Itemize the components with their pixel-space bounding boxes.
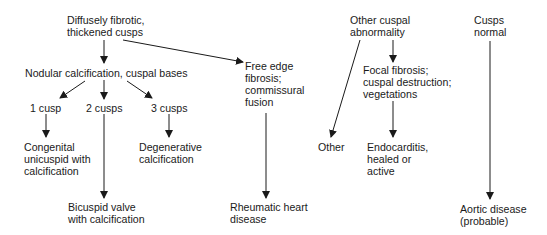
- node-line: vegetations: [363, 88, 451, 100]
- node-line: calcification: [139, 153, 202, 165]
- node-free-edge-fibrosis: Free edge fibrosis; commissural fusion: [245, 60, 304, 108]
- node-line: Focal fibrosis;: [363, 64, 451, 76]
- node-line: fusion: [245, 96, 304, 108]
- node-line: cuspal destruction;: [363, 76, 451, 88]
- node-other: Other: [318, 141, 345, 153]
- node-degenerative-calcification: Degenerative calcification: [139, 141, 202, 165]
- arrow-nodular-to-3cusps: [127, 81, 152, 98]
- node-line: 3 cusps: [151, 102, 188, 114]
- node-line: Degenerative: [139, 141, 202, 153]
- node-aortic-disease: Aortic disease (probable): [460, 203, 527, 227]
- node-congenital-unicuspid: Congenital unicuspid with calcification: [24, 141, 91, 177]
- node-line: Cusps: [474, 14, 506, 26]
- node-line: Rheumatic heart: [230, 201, 308, 213]
- node-bicuspid-valve: Bicuspid valve with calcification: [68, 201, 145, 225]
- node-line: Bicuspid valve: [68, 201, 145, 213]
- node-line: unicuspid with: [24, 153, 91, 165]
- arrow-other-cuspal-to-other: [331, 40, 360, 137]
- node-rheumatic-heart-disease: Rheumatic heart disease: [230, 201, 308, 225]
- node-diffusely-fibrotic: Diffusely fibrotic, thickened cusps: [67, 14, 145, 38]
- node-line: (probable): [460, 215, 527, 227]
- node-line: abnormality: [350, 26, 410, 38]
- node-line: 1 cusp: [30, 102, 61, 114]
- node-line: Nodular calcification, cuspal bases: [25, 67, 188, 79]
- node-line: with calcification: [68, 213, 145, 225]
- node-2-cusps: 2 cusps: [86, 102, 123, 114]
- aortic-valve-flowchart: Diffusely fibrotic, thickened cusps Nodu…: [0, 0, 547, 235]
- node-cusps-normal: Cusps normal: [474, 14, 506, 38]
- node-other-cuspal-abnormality: Other cuspal abnormality: [350, 14, 410, 38]
- node-line: 2 cusps: [86, 102, 123, 114]
- node-line: disease: [230, 213, 308, 225]
- arrow-nodular-to-1cusp: [60, 81, 85, 98]
- node-line: Diffusely fibrotic,: [67, 14, 145, 26]
- node-nodular-calcification: Nodular calcification, cuspal bases: [25, 67, 188, 79]
- node-endocarditis: Endocarditis, healed or active: [367, 141, 428, 177]
- node-1-cusp: 1 cusp: [30, 102, 61, 114]
- node-line: Congenital: [24, 141, 91, 153]
- node-line: Other cuspal: [350, 14, 410, 26]
- node-line: Free edge: [245, 60, 304, 72]
- node-line: healed or: [367, 153, 428, 165]
- node-line: Aortic disease: [460, 203, 527, 215]
- node-line: normal: [474, 26, 506, 38]
- node-line: calcification: [24, 165, 91, 177]
- node-line: Endocarditis,: [367, 141, 428, 153]
- node-line: thickened cusps: [67, 26, 145, 38]
- arrow-diffuse-to-free-edge: [123, 40, 243, 62]
- node-line: commissural: [245, 84, 304, 96]
- node-focal-fibrosis: Focal fibrosis; cuspal destruction; vege…: [363, 64, 451, 100]
- node-line: Other: [318, 141, 345, 153]
- node-3-cusps: 3 cusps: [151, 102, 188, 114]
- node-line: active: [367, 165, 428, 177]
- node-line: fibrosis;: [245, 72, 304, 84]
